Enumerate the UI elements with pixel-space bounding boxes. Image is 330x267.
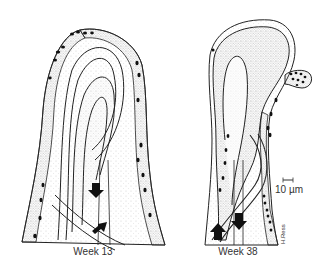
scale-bar [283, 178, 293, 183]
caption-week13: Week 13 [73, 246, 112, 257]
scale-bar-label: 10 µm [275, 184, 303, 195]
artist-signature: H.Ress [280, 224, 286, 244]
week38-drawing [205, 20, 312, 245]
caption-week38: Week 38 [218, 246, 257, 257]
week13-drawing [22, 29, 165, 250]
